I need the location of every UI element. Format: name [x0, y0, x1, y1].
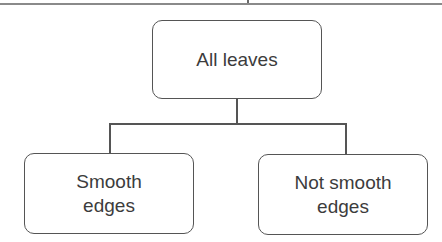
child-node-label-line2: edges — [83, 194, 135, 218]
right-branch-connector — [345, 123, 347, 155]
branch-connector-horizontal — [109, 123, 346, 125]
top-border-line — [0, 3, 442, 5]
root-node: All leaves — [152, 20, 322, 99]
root-connector-vertical — [236, 99, 238, 124]
child-node-label-line2: edges — [317, 195, 369, 219]
child-node-label-line1: Smooth — [76, 170, 141, 194]
top-tick-mark — [247, 0, 249, 3]
child-node-not-smooth-edges: Not smooth edges — [258, 154, 428, 235]
left-branch-connector — [109, 123, 111, 154]
child-node-smooth-edges: Smooth edges — [24, 153, 194, 234]
root-node-label: All leaves — [196, 48, 277, 72]
child-node-label-line1: Not smooth — [294, 171, 391, 195]
